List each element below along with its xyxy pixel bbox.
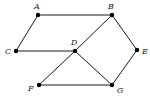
node-label-e: E [141,47,148,56]
edge-b-d [75,15,112,51]
node-d [73,49,77,53]
edge-d-f [39,51,75,85]
node-label-f: F [27,84,34,93]
node-label-a: A [33,2,40,11]
node-label-d: D [70,38,78,47]
node-label-b: B [107,2,114,11]
graph-diagram: ABCDEFG [0,0,150,105]
node-label-c: C [5,47,11,56]
node-b [110,13,114,17]
node-a [36,13,40,17]
edge-b-e [112,15,137,50]
node-c [14,49,18,53]
node-label-g: G [117,86,124,95]
edge-a-c [16,15,38,51]
node-f [37,83,41,87]
edge-e-g [112,50,137,85]
edge-d-g [75,51,112,85]
node-g [110,83,114,87]
node-labels: ABCDEFG [5,2,148,95]
node-e [135,48,139,52]
